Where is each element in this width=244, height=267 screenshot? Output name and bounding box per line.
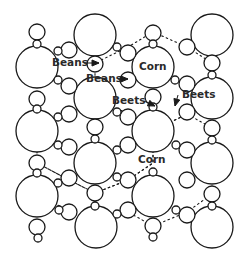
diagram-canvas: BeansBeansBeetsBeetsCornCorn (0, 0, 244, 267)
medium-plant-circle (61, 106, 77, 122)
medium-plant-circle (179, 142, 195, 158)
intercropping-diagram: BeansBeansBeetsBeetsCornCorn (0, 0, 244, 267)
small-plant-circle (208, 136, 216, 144)
small-plant-circle (34, 234, 42, 242)
medium-plant-circle (179, 172, 195, 188)
medium-plant-circle (145, 25, 161, 41)
small-plant-circle (54, 47, 62, 55)
small-plant-circle (149, 40, 157, 48)
small-plant-circle (113, 210, 121, 218)
large-plant-circle (16, 175, 58, 217)
medium-plant-circle (145, 218, 161, 234)
label-corn-2: Corn (138, 153, 166, 165)
large-plant-circle (191, 142, 233, 184)
medium-plant-circle (120, 109, 136, 125)
medium-plant-circle (61, 170, 77, 186)
medium-plant-circle (61, 204, 77, 220)
large-plant-circle (16, 110, 58, 152)
medium-plant-circle (87, 185, 103, 201)
small-plant-circle (55, 206, 63, 214)
medium-plant-circle (204, 186, 220, 202)
medium-plant-circle (179, 39, 195, 55)
medium-plant-circle (120, 137, 136, 153)
small-plant-circle (54, 141, 62, 149)
small-plant-circle (33, 169, 41, 177)
medium-plant-circle (179, 207, 195, 223)
large-plant-circle (132, 110, 174, 152)
medium-plant-circle (120, 202, 136, 218)
small-plant-circle (54, 179, 62, 187)
small-plant-circle (208, 71, 216, 79)
small-plant-circle (54, 113, 62, 121)
medium-plant-circle (29, 219, 45, 235)
large-plant-circle (74, 14, 116, 56)
small-plant-circle (172, 206, 180, 214)
medium-plant-circle (61, 78, 77, 94)
small-plant-circle (113, 173, 121, 181)
plant-circles (16, 14, 233, 248)
label-beets-1: Beets (112, 94, 146, 106)
small-plant-circle (149, 168, 157, 176)
small-plant-circle (33, 105, 41, 113)
medium-plant-circle (87, 119, 103, 135)
medium-plant-circle (29, 24, 45, 40)
small-plant-circle (113, 108, 121, 116)
medium-plant-circle (204, 55, 220, 71)
large-plant-circle (75, 206, 117, 248)
large-plant-circle (132, 175, 174, 217)
medium-plant-circle (61, 139, 77, 155)
small-plant-circle (149, 233, 157, 241)
large-plant-circle (191, 206, 233, 248)
medium-plant-circle (120, 45, 136, 61)
small-plant-circle (208, 202, 216, 210)
small-plant-circle (113, 146, 121, 154)
small-plant-circle (172, 141, 180, 149)
label-corn-1: Corn (139, 60, 167, 72)
small-plant-circle (171, 76, 179, 84)
label-beans-2: Beans (86, 72, 122, 84)
small-plant-circle (54, 76, 62, 84)
medium-plant-circle (204, 120, 220, 136)
small-plant-circle (91, 202, 99, 210)
large-plant-circle (74, 142, 116, 184)
arrowhead-icon (174, 98, 180, 106)
medium-plant-circle (120, 172, 136, 188)
small-plant-circle (91, 135, 99, 143)
large-plant-circle (191, 14, 233, 56)
small-plant-circle (113, 43, 121, 51)
small-plant-circle (33, 40, 41, 48)
label-beets-2: Beets (182, 88, 216, 100)
medium-plant-circle (179, 104, 195, 120)
label-beans-1: Beans (52, 56, 88, 68)
